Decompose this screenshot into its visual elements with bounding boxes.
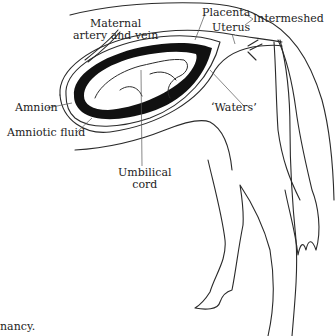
label-waters: ‘Waters’ — [211, 102, 257, 114]
label-intermeshed: Intermeshed — [253, 13, 324, 25]
label-uterus: Uterus — [212, 22, 250, 34]
label-maternal-artery-vein: Maternal artery and vein — [73, 18, 158, 42]
label-amniotic-fluid: Amniotic fluid — [7, 127, 85, 139]
label-umbilical-cord: Umbilical cord — [118, 167, 172, 191]
hind-leg-outline — [195, 160, 273, 336]
label-placenta: Placenta — [202, 7, 250, 19]
leader-uterus — [232, 34, 235, 44]
leader-waters — [210, 70, 243, 105]
tail-outline — [278, 40, 319, 255]
label-amnion: Amnion — [15, 102, 58, 114]
allantoic-fluid-band — [74, 43, 212, 119]
leader-umbilical — [141, 70, 142, 166]
caption-fragment: nancy. — [0, 321, 35, 333]
